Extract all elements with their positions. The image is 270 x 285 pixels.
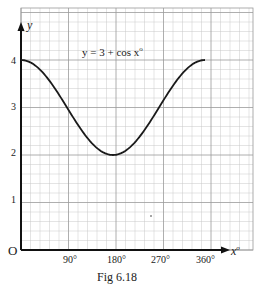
x-tick-180: 180°	[107, 255, 126, 265]
y-tick-4: 4	[11, 56, 16, 66]
x-tick-270: 270°	[151, 255, 170, 265]
figure-caption: Fig 6.18	[97, 270, 137, 285]
x-tick-360: 360°	[196, 255, 215, 265]
y-tick-2: 2	[11, 148, 16, 158]
x-tick-90: 90°	[63, 255, 77, 265]
y-axis-label: y	[27, 20, 32, 30]
graph-paper-plot	[0, 0, 270, 285]
x-axis-arrow-icon	[221, 247, 230, 254]
speck	[150, 215, 152, 217]
x-axis-label: xo	[231, 243, 240, 256]
figure: y y = 3 + cos xo 4 3 2 1 O 90° 180° 270°…	[0, 0, 270, 285]
x-degree-sup: o	[236, 244, 240, 252]
y-axis-arrow-icon	[18, 22, 25, 31]
degree-sup: o	[139, 45, 143, 53]
equation-text: y = 3 + cos x	[82, 46, 139, 58]
equation-label: y = 3 + cos xo	[82, 45, 143, 58]
y-tick-3: 3	[11, 102, 16, 112]
origin-label: O	[8, 244, 17, 257]
y-tick-1: 1	[11, 195, 16, 205]
